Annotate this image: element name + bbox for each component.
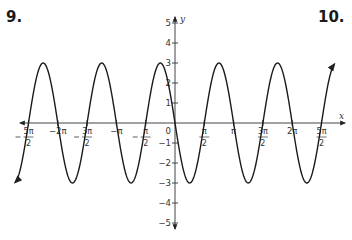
svg-text:3π: 3π	[82, 127, 92, 136]
y-tick-label: 5	[166, 18, 171, 28]
origin-label: 0	[166, 126, 171, 136]
svg-text:3π: 3π	[258, 127, 268, 136]
svg-text:2: 2	[26, 139, 31, 148]
svg-text:2: 2	[85, 139, 90, 148]
y-tick-label: 3	[166, 58, 171, 68]
y-tick-label: −2	[158, 158, 171, 168]
y-tick-label: −3	[158, 178, 171, 188]
x-axis-label: x	[339, 111, 344, 121]
tick-labels: xy54321−1−2−3−4−505π2−2π3π2−ππ2π2π3π22π5…	[16, 14, 345, 228]
y-axis-label: y	[179, 14, 186, 24]
svg-text:5π: 5π	[317, 127, 327, 136]
y-tick-label: −1	[158, 138, 171, 148]
svg-text:2: 2	[143, 139, 148, 148]
y-tick-label: 4	[166, 38, 171, 48]
svg-text:5π: 5π	[24, 127, 34, 136]
sine-graph: xy54321−1−2−3−4−505π2−2π3π2−ππ2π2π3π22π5…	[0, 0, 352, 240]
y-tick-label: −4	[158, 198, 171, 208]
y-tick-label: 1	[166, 98, 171, 108]
y-tick-label: −5	[158, 218, 171, 228]
svg-text:2: 2	[319, 139, 324, 148]
svg-text:2: 2	[260, 139, 265, 148]
svg-text:2: 2	[202, 139, 207, 148]
axes	[20, 17, 345, 229]
